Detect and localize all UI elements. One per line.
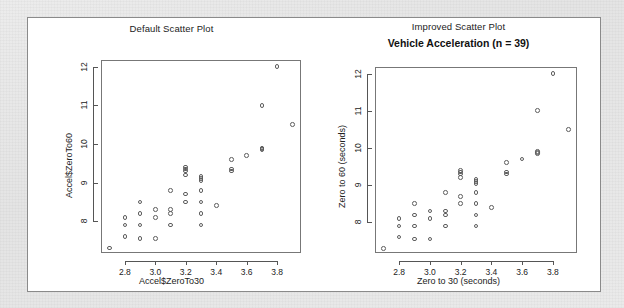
- data-points-improved: [376, 68, 576, 252]
- y-tick-label: 9: [353, 183, 363, 188]
- data-point: [428, 237, 433, 242]
- plot-title-default: Default Scatter Plot: [28, 23, 315, 34]
- main-title-improved: Vehicle Acceleration (n = 39): [315, 37, 602, 49]
- data-point: [428, 209, 433, 214]
- data-point: [275, 64, 280, 69]
- y-tick: [367, 148, 372, 149]
- default-scatter-plot: Default Scatter Plot 2.83.03.23.43.63.88…: [28, 18, 315, 293]
- data-point: [138, 236, 143, 241]
- data-point: [474, 213, 479, 218]
- data-point: [199, 223, 204, 228]
- y-tick: [93, 221, 98, 222]
- y-tick: [93, 105, 98, 106]
- x-tick: [461, 261, 462, 265]
- x-axis-line: [125, 261, 277, 262]
- y-tick-label: 11: [353, 106, 363, 115]
- x-axis-title-improved: Zero to 30 (seconds): [315, 276, 602, 286]
- y-tick-label: 10: [353, 143, 363, 152]
- data-point: [504, 172, 509, 177]
- data-point: [138, 200, 143, 205]
- x-tick: [399, 261, 400, 265]
- y-tick-label: 11: [79, 101, 89, 110]
- data-point: [107, 246, 112, 251]
- data-point: [381, 246, 386, 251]
- data-point: [474, 179, 479, 184]
- data-point: [183, 173, 188, 178]
- data-point: [199, 211, 204, 216]
- data-point: [183, 192, 188, 197]
- y-tick-label: 8: [79, 219, 89, 224]
- x-axis-line: [399, 261, 553, 262]
- y-tick: [93, 144, 98, 145]
- data-point: [535, 150, 540, 155]
- data-point: [428, 216, 433, 221]
- data-point: [443, 213, 448, 218]
- data-point: [123, 234, 128, 239]
- data-point: [412, 201, 417, 206]
- y-tick-label: 10: [79, 139, 89, 148]
- plot-frame-default: [101, 60, 301, 253]
- data-point: [397, 235, 402, 240]
- data-point: [199, 200, 204, 205]
- data-point: [458, 201, 463, 206]
- plot-frame-improved: [375, 67, 577, 253]
- x-tick: [216, 261, 217, 265]
- data-point: [397, 216, 402, 221]
- y-tick: [367, 74, 372, 75]
- x-tick: [125, 261, 126, 265]
- data-point: [458, 194, 463, 199]
- data-point: [412, 237, 417, 242]
- y-tick: [367, 111, 372, 112]
- figure-panel: Default Scatter Plot 2.83.03.23.43.63.88…: [27, 17, 601, 292]
- data-point: [260, 146, 265, 151]
- data-point: [123, 223, 128, 228]
- data-point: [138, 211, 143, 216]
- data-point: [443, 224, 448, 229]
- data-point: [168, 223, 173, 228]
- data-point: [214, 203, 219, 208]
- data-point: [168, 188, 173, 193]
- data-point: [260, 103, 265, 108]
- data-point: [153, 207, 158, 212]
- y-tick-label: 12: [79, 62, 89, 71]
- data-points-default: [102, 61, 300, 252]
- y-tick: [93, 183, 98, 184]
- y-axis-title-default: Accel$ZeroTo60: [64, 133, 74, 198]
- data-point: [290, 122, 295, 127]
- data-point: [474, 224, 479, 229]
- data-point: [412, 213, 417, 218]
- data-point: [183, 200, 188, 205]
- data-point: [474, 190, 479, 195]
- data-point: [168, 211, 173, 216]
- y-tick: [367, 185, 372, 186]
- data-point: [443, 190, 448, 195]
- data-point: [458, 175, 463, 180]
- data-point: [474, 201, 479, 206]
- data-point: [412, 224, 417, 229]
- x-tick: [186, 261, 187, 265]
- data-point: [123, 215, 128, 220]
- data-point: [138, 223, 143, 228]
- data-point: [397, 224, 402, 229]
- x-tick: [553, 261, 554, 265]
- data-point: [153, 236, 158, 241]
- data-point: [566, 127, 571, 132]
- x-tick: [155, 261, 156, 265]
- data-point: [229, 157, 234, 162]
- y-tick-label: 9: [79, 180, 89, 185]
- x-tick: [522, 261, 523, 265]
- data-point: [535, 108, 540, 113]
- data-point: [520, 157, 525, 162]
- x-tick: [277, 261, 278, 265]
- data-point: [489, 205, 494, 210]
- y-tick-label: 8: [353, 220, 363, 225]
- y-axis-title-improved: Zero to 60 (seconds): [337, 125, 347, 208]
- data-point: [199, 188, 204, 193]
- data-point: [229, 169, 234, 174]
- data-point: [244, 153, 249, 158]
- y-tick: [367, 222, 372, 223]
- x-tick: [430, 261, 431, 265]
- x-tick: [247, 261, 248, 265]
- y-tick: [93, 67, 98, 68]
- plot-title-improved: Improved Scatter Plot: [315, 21, 602, 32]
